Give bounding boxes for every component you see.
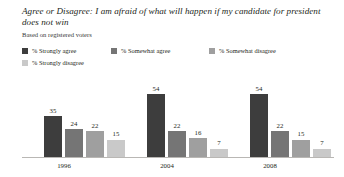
bar-2004-strongly-agree[interactable]: 54 — [147, 78, 165, 157]
x-axis-labels: 1996 2004 2008 — [22, 162, 334, 174]
x-axis-label-2008: 2008 — [230, 162, 310, 169]
bar-value-label: 54 — [256, 85, 263, 93]
plot-area: 35 24 22 15 54 22 — [22, 78, 334, 158]
bar-2004-strongly-disagree[interactable]: 7 — [210, 78, 228, 157]
bar-rect — [210, 149, 228, 157]
bar-rect — [44, 116, 62, 157]
chart-subtitle: Based on registered voters — [22, 31, 92, 39]
bar-rect — [147, 94, 165, 157]
bar-1996-strongly-agree[interactable]: 35 — [44, 78, 62, 157]
bar-value-label: 54 — [153, 85, 160, 93]
bar-1996-strongly-disagree[interactable]: 15 — [107, 78, 125, 157]
legend-swatch-somewhat-agree — [111, 48, 117, 54]
legend-item-strongly-agree[interactable]: % Strongly agree — [22, 45, 76, 57]
legend-item-somewhat-agree[interactable]: % Somewhat agree — [111, 45, 170, 57]
bar-rect — [189, 138, 207, 157]
x-axis-line — [22, 157, 334, 158]
bar-value-label: 16 — [195, 129, 202, 137]
bar-1996-somewhat-disagree[interactable]: 22 — [86, 78, 104, 157]
bar-rect — [292, 140, 310, 158]
bar-rect — [107, 140, 125, 158]
bar-2008-strongly-agree[interactable]: 54 — [250, 78, 268, 157]
chart-legend: % Strongly agree % Somewhat agree % Some… — [22, 45, 334, 69]
bar-2008-strongly-disagree[interactable]: 7 — [313, 78, 331, 157]
bar-group-1996: 35 24 22 15 — [44, 78, 125, 157]
bar-rect — [168, 131, 186, 157]
bar-rect — [65, 129, 83, 157]
bar-rect — [313, 149, 331, 157]
legend-item-somewhat-disagree[interactable]: % Somewhat disagree — [209, 45, 276, 57]
legend-swatch-strongly-disagree — [22, 60, 28, 66]
bar-rect — [250, 94, 268, 157]
chart-title: Agree or Disagree: I am afraid of what w… — [22, 6, 322, 28]
bar-value-label: 22 — [277, 122, 284, 130]
bar-value-label: 35 — [50, 107, 57, 115]
legend-label-somewhat-disagree: % Somewhat disagree — [219, 47, 276, 55]
bar-2004-somewhat-disagree[interactable]: 16 — [189, 78, 207, 157]
bar-value-label: 7 — [320, 139, 323, 147]
legend-swatch-somewhat-disagree — [209, 48, 215, 54]
legend-item-strongly-disagree[interactable]: % Strongly disagree — [22, 57, 84, 69]
legend-label-strongly-agree: % Strongly agree — [32, 47, 76, 55]
bar-group-2004: 54 22 16 7 — [147, 78, 228, 157]
bar-value-label: 7 — [217, 139, 220, 147]
bar-2008-somewhat-agree[interactable]: 22 — [271, 78, 289, 157]
legend-row-2: % Strongly disagree — [22, 57, 334, 69]
bar-2008-somewhat-disagree[interactable]: 15 — [292, 78, 310, 157]
x-axis-label-1996: 1996 — [24, 162, 104, 169]
bar-rect — [271, 131, 289, 157]
bar-1996-somewhat-agree[interactable]: 24 — [65, 78, 83, 157]
x-axis-label-2004: 2004 — [127, 162, 207, 169]
chart-container: Agree or Disagree: I am afraid of what w… — [0, 0, 344, 177]
bar-value-label: 15 — [113, 130, 120, 138]
bar-value-label: 24 — [71, 120, 78, 128]
bar-2004-somewhat-agree[interactable]: 22 — [168, 78, 186, 157]
bar-rect — [86, 131, 104, 157]
bar-value-label: 22 — [174, 122, 181, 130]
legend-label-strongly-disagree: % Strongly disagree — [32, 59, 84, 67]
bar-group-2008: 54 22 15 7 — [250, 78, 331, 157]
legend-label-somewhat-agree: % Somewhat agree — [121, 47, 170, 55]
legend-swatch-strongly-agree — [22, 48, 28, 54]
bar-value-label: 15 — [298, 130, 305, 138]
bar-value-label: 22 — [92, 122, 99, 130]
legend-row-1: % Strongly agree % Somewhat agree % Some… — [22, 45, 334, 57]
